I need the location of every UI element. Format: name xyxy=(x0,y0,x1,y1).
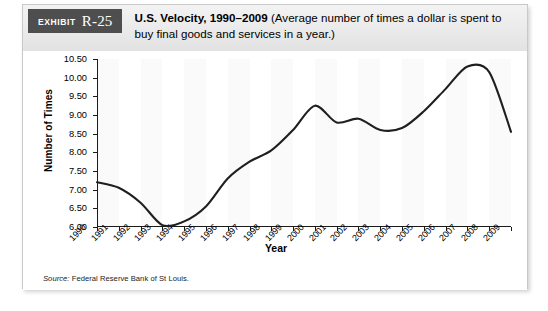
y-axis-title: Number of Times xyxy=(43,61,54,201)
y-axis-tick-label: 8.00 xyxy=(69,147,87,157)
y-axis-tick-label: 6.50 xyxy=(69,203,87,213)
exhibit-title: U.S. Velocity, 1990–2009 (Average number… xyxy=(135,10,507,41)
velocity-line-series xyxy=(97,59,511,227)
exhibit-badge: Exhibit R-25 xyxy=(28,9,122,33)
y-axis-tick-label: 9.00 xyxy=(69,110,87,120)
exhibit-header: Exhibit R-25 U.S. Velocity, 1990–2009 (A… xyxy=(23,5,527,51)
source-label: Source: xyxy=(43,274,70,283)
exhibit-figure: Exhibit R-25 U.S. Velocity, 1990–2009 (A… xyxy=(22,4,528,289)
plot-region: 6.006.507.007.508.008.509.009.5010.0010.… xyxy=(97,59,511,227)
y-axis-tick-label: 10.50 xyxy=(64,54,87,64)
chart-body: Number of Times Year 6.006.507.007.508.0… xyxy=(23,51,527,290)
y-axis-tick-label: 7.50 xyxy=(69,166,87,176)
source-text: Federal Reserve Bank of St Louis. xyxy=(70,274,189,283)
x-axis-title: Year xyxy=(23,242,529,254)
source-note: Source: Federal Reserve Bank of St Louis… xyxy=(43,274,189,283)
y-axis-tick-label: 10.00 xyxy=(64,73,87,83)
x-axis-tick: 2009 xyxy=(511,227,512,231)
y-axis-tick-label: 7.00 xyxy=(69,185,87,195)
chart-area: Number of Times Year 6.006.507.007.508.0… xyxy=(23,51,529,266)
exhibit-badge-number: R-25 xyxy=(82,14,113,29)
y-axis-tick-label: 9.50 xyxy=(69,91,87,101)
velocity-line-path xyxy=(97,65,511,227)
exhibit-badge-word: Exhibit xyxy=(38,18,76,27)
exhibit-title-main: U.S. Velocity, 1990–2009 xyxy=(135,11,268,24)
y-axis-tick-label: 8.50 xyxy=(69,129,87,139)
